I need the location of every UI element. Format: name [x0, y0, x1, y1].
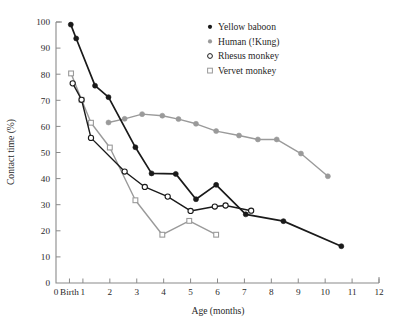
data-point-open-circle: [122, 169, 127, 174]
y-tick-label: 30: [41, 200, 51, 210]
data-point-open-square: [160, 232, 165, 237]
data-point-open-circle: [142, 184, 147, 189]
x-tick-label: 10: [321, 287, 331, 297]
data-point-open-circle: [188, 208, 193, 213]
y-axis-ticks: 0102030405060708090100: [36, 17, 60, 288]
series-human-kung: [106, 112, 330, 179]
data-point-filled-circle: [255, 137, 260, 142]
data-point-open-square: [107, 145, 112, 150]
data-point-filled-circle: [160, 113, 165, 118]
data-point-open-circle: [212, 204, 217, 209]
legend-item-label: Human (!Kung): [218, 36, 280, 48]
y-tick-label: 10: [41, 252, 51, 262]
x-tick-label: 5: [188, 287, 193, 297]
x-tick-label: 1: [81, 287, 86, 297]
series-line: [108, 114, 327, 176]
data-point-filled-circle: [106, 120, 111, 125]
legend-item-human-kung[interactable]: Human (!Kung): [208, 36, 280, 48]
x-axis-ticks: 0Birth123456789101112: [54, 279, 384, 298]
x-tick-label: 4: [161, 287, 166, 297]
series-vervet-monkey: [69, 71, 219, 237]
legend-item-label: Rhesus monkey: [218, 50, 279, 61]
x-tick-label: 8: [269, 287, 274, 297]
y-tick-label: 0: [45, 278, 50, 288]
y-tick-label: 50: [41, 148, 51, 158]
x-tick-label: 7: [242, 287, 247, 297]
data-point-filled-circle: [122, 116, 127, 121]
legend-item-rhesus-monkey[interactable]: Rhesus monkey: [208, 50, 280, 61]
x-tick-label: 3: [134, 287, 139, 297]
data-point-filled-circle: [214, 129, 219, 134]
data-point-filled-circle: [298, 151, 303, 156]
data-point-open-circle: [70, 81, 75, 86]
legend-item-yellow-baboon[interactable]: Yellow baboon: [208, 21, 276, 32]
legend-item-label: Yellow baboon: [218, 21, 276, 32]
data-point-filled-circle: [106, 95, 111, 100]
data-point-filled-circle: [93, 83, 98, 88]
contact-time-line-chart: 0Birth123456789101112 010203040506070809…: [0, 0, 396, 330]
data-point-filled-circle: [193, 121, 198, 126]
legend-marker-open-square: [208, 68, 213, 73]
data-point-open-circle: [165, 194, 170, 199]
legend-marker-open-circle: [208, 54, 213, 59]
data-point-open-circle: [249, 208, 254, 213]
y-tick-label: 90: [41, 43, 51, 53]
x-tick-label: Birth: [60, 287, 79, 297]
data-point-filled-circle: [133, 145, 138, 150]
x-tick-label: 2: [108, 287, 113, 297]
data-point-filled-circle: [68, 22, 73, 27]
data-point-filled-circle: [193, 197, 198, 202]
y-axis-title: Contact time (%): [5, 119, 17, 185]
y-tick-label: 40: [41, 174, 51, 184]
chart-legend: Yellow baboonHuman (!Kung)Rhesus monkeyV…: [208, 21, 280, 76]
series-layer: [68, 22, 344, 249]
legend-item-vervet-monkey[interactable]: Vervet monkey: [208, 65, 277, 76]
x-axis-title: Age (months): [191, 305, 244, 317]
data-point-open-square: [69, 71, 74, 76]
data-point-open-circle: [88, 135, 93, 140]
series-line: [73, 83, 251, 211]
y-tick-label: 20: [41, 226, 51, 236]
data-point-filled-circle: [173, 171, 178, 176]
series-rhesus-monkey: [70, 81, 254, 214]
data-point-filled-circle: [325, 174, 330, 179]
data-point-open-square: [89, 120, 94, 125]
y-tick-label: 70: [41, 96, 51, 106]
data-point-open-square: [214, 232, 219, 237]
x-tick-label: 6: [215, 287, 220, 297]
data-point-filled-circle: [214, 182, 219, 187]
data-point-open-square: [133, 198, 138, 203]
data-point-filled-circle: [243, 212, 248, 217]
data-point-filled-circle: [281, 219, 286, 224]
legend-item-label: Vervet monkey: [218, 65, 277, 76]
data-point-filled-circle: [74, 36, 79, 41]
data-point-filled-circle: [339, 244, 344, 249]
series-yellow-baboon: [68, 22, 344, 249]
y-tick-label: 100: [36, 17, 50, 27]
data-point-open-circle: [223, 203, 228, 208]
data-point-open-square: [187, 218, 192, 223]
y-tick-label: 80: [41, 70, 51, 80]
caption-fragment: [0, 318, 396, 330]
x-tick-label: 9: [296, 287, 301, 297]
data-point-filled-circle: [237, 133, 242, 138]
series-line: [71, 25, 342, 247]
data-point-filled-circle: [176, 117, 181, 122]
x-tick-label: 11: [348, 287, 357, 297]
x-tick-label: 12: [374, 287, 384, 297]
legend-marker-filled-circle: [208, 25, 212, 29]
data-point-filled-circle: [149, 171, 154, 176]
data-point-filled-circle: [274, 137, 279, 142]
y-tick-label: 60: [41, 122, 51, 132]
x-tick-label: 0: [54, 287, 59, 297]
figure-container: 0Birth123456789101112 010203040506070809…: [0, 0, 396, 330]
data-point-open-circle: [79, 97, 84, 102]
legend-marker-filled-circle: [208, 39, 212, 43]
data-point-filled-circle: [140, 112, 145, 117]
